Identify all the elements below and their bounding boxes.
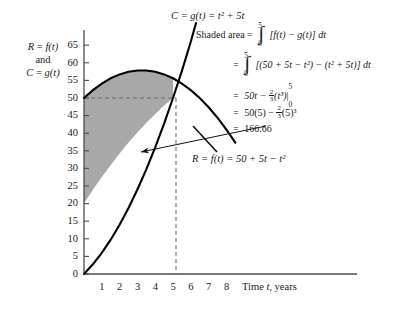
step4-tail: (5)³ [282, 107, 297, 118]
x-tick-label-6: 6 [184, 281, 198, 292]
equals-3: = [233, 90, 239, 101]
result-value: 166.66 [244, 123, 272, 134]
step4-denominator: 3 [276, 113, 281, 120]
equals-1: = [247, 29, 253, 40]
x-axis-title: Time t, years [242, 281, 297, 292]
revenue-label-leader [193, 126, 217, 152]
step3-denominator: 3 [269, 96, 274, 103]
cost-curve-label-text: C = g(t) = t² + 5t [171, 10, 244, 21]
x-tick-label-5: 5 [166, 281, 180, 292]
x-tick-label-2: 2 [113, 281, 127, 292]
integrand-2: [(50 + 5t − t²) − (t² + 5t)] dt [255, 59, 370, 70]
step3-fraction: 23 [269, 89, 274, 104]
step4-lead: 50(5) − [244, 107, 276, 118]
y-tick-label-35: 35 [56, 145, 78, 156]
x-tick-label-4: 4 [148, 281, 162, 292]
equals-5: = [233, 123, 239, 134]
y-tick-label-45: 45 [56, 109, 78, 120]
shaded-area-text: Shaded area [196, 29, 245, 40]
y-title-oft1: (t) [48, 41, 58, 52]
shaded-area-derivation: Shaded area = 5 0 ∫ [f(t) − g(t)] dt = 5… [196, 26, 326, 43]
step4-fraction: 23 [276, 105, 281, 120]
x-tick-label-3: 3 [131, 281, 145, 292]
revenue-curve-label: R = f(t) = 50 + 5t − t² [192, 153, 285, 164]
integral-sign-2: ∫ [244, 58, 249, 69]
y-tick-label-10: 10 [56, 233, 78, 244]
x-tick-label-7: 7 [202, 281, 216, 292]
y-tick-label-30: 30 [56, 162, 78, 173]
derivation-line-5: = 166.66 [233, 123, 272, 134]
evaluation-limits: 50 [289, 89, 293, 104]
step3-lead: 50t − [244, 90, 269, 101]
y-tick-label-25: 25 [56, 180, 78, 191]
equals-4: = [233, 107, 239, 118]
y-tick-label-5: 5 [56, 250, 78, 261]
revenue-curve-label-text: R = f(t) = 50 + 5t − t² [192, 153, 285, 164]
y-axis-title-line1: R = f(t) [14, 40, 72, 53]
step3-tail: (t³) [274, 90, 286, 101]
x-tick-label-8: 8 [220, 281, 234, 292]
derivation-line-2: = 5 0 ∫ [(50 + 5t − t²) − (t² + 5t)] dt [233, 56, 371, 73]
derivation-line-1: Shaded area = 5 0 ∫ [f(t) − g(t)] dt [196, 26, 326, 43]
figure-area-between-curves: 65 60 55 50 45 40 35 30 25 20 15 10 5 0 … [0, 0, 416, 309]
y-tick-label-15: 15 [56, 215, 78, 226]
eval-upper: 5 [289, 83, 293, 91]
cost-curve-label: C = g(t) = t² + 5t [171, 10, 244, 21]
y-tick-label-20: 20 [56, 197, 78, 208]
y-title-eq1: = [34, 41, 45, 52]
y-tick-label-40: 40 [56, 127, 78, 138]
integrand-1: [f(t) − g(t)] dt [269, 29, 325, 40]
y-axis-title-line3: C = g(t) [14, 66, 72, 79]
y-tick-label-50: 50 [56, 92, 78, 103]
x-tick-label-1: 1 [95, 281, 109, 292]
y-axis-title-line2: and [14, 53, 72, 66]
x-axis-title-unit: , years [269, 281, 296, 292]
y-title-eq2: = [33, 67, 44, 78]
y-title-oft2: (t) [50, 67, 60, 78]
shaded-region [84, 71, 173, 275]
y-tick-label-0: 0 [56, 268, 78, 279]
equals-2: = [233, 59, 239, 70]
y-axis-title: R = f(t) and C = g(t) [14, 40, 72, 79]
x-axis-title-time: Time [242, 281, 264, 292]
integral-sign-1: ∫ [258, 28, 263, 39]
derivation-line-3: = 50t − 23(t³)|50 [233, 89, 292, 104]
derivation-line-4: = 50(5) − 23(5)³ [233, 106, 297, 121]
